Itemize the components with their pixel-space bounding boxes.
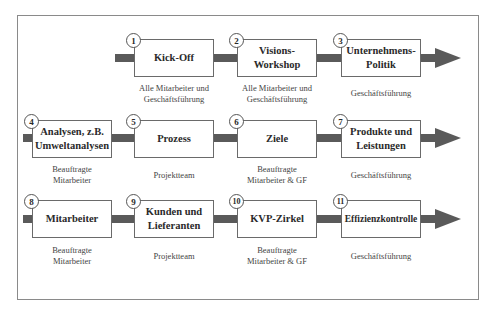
step-responsible-8: Beauftragte Mitarbeiter: [17, 245, 127, 267]
step-box-9: Kunden und Lieferanten: [134, 200, 214, 238]
step-responsible-9: Projektteam: [119, 251, 229, 262]
step-number-6: 6: [229, 114, 244, 129]
step-responsible-5: Projektteam: [119, 170, 229, 181]
step-responsible-11: Geschäftsführung: [326, 251, 436, 262]
step-box-8: Mitarbeiter: [32, 200, 112, 238]
step-box-1: Kick-Off: [134, 39, 214, 77]
step-number-5: 5: [126, 114, 141, 129]
step-box-2: Visions- Workshop: [237, 39, 317, 77]
step-number-3: 3: [333, 33, 348, 48]
arrowhead-row-3: [435, 209, 461, 229]
arrowhead-row-1: [435, 48, 461, 68]
step-responsible-2: Alle Mitarbeiter und Geschäftsführung: [222, 83, 332, 105]
step-responsible-6: Beauftragte Mitarbeiter & GF: [222, 164, 332, 186]
step-number-9: 9: [126, 194, 141, 209]
step-responsible-4: Beauftragte Mitarbeiter: [17, 164, 127, 186]
step-number-4: 4: [24, 114, 39, 129]
step-box-3: Unternehmens- Politik: [341, 39, 421, 77]
step-number-10: 10: [229, 194, 244, 209]
step-number-2: 2: [229, 33, 244, 48]
step-number-8: 8: [24, 194, 39, 209]
step-number-1: 1: [126, 33, 141, 48]
step-responsible-10: Beauftragte Mitarbeiter & GF: [222, 245, 332, 267]
step-box-7: Produkte und Leistungen: [341, 120, 421, 158]
step-responsible-3: Geschäftsführung: [326, 88, 436, 99]
arrowhead-row-2: [435, 128, 461, 148]
step-box-4: Analysen, z.B. Umweltanalysen: [32, 120, 112, 158]
step-box-10: KVP-Zirkel: [237, 200, 317, 238]
step-box-11: Effizienzkontrolle: [341, 200, 421, 238]
step-number-11: 11: [333, 194, 348, 209]
step-box-5: Prozess: [134, 120, 214, 158]
step-number-7: 7: [333, 114, 348, 129]
step-box-6: Ziele: [237, 120, 317, 158]
step-responsible-7: Geschäftsführung: [326, 170, 436, 181]
step-responsible-1: Alle Mitarbeiter und Geschäftsführung: [119, 83, 229, 105]
